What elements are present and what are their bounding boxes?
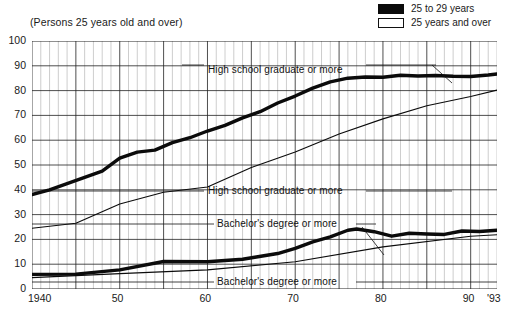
plot-area [32, 41, 497, 289]
y-tick-90: 90 [0, 59, 26, 71]
x-tick-1980: 80 [375, 292, 387, 304]
y-tick-30: 30 [0, 208, 26, 220]
y-tick-100: 100 [0, 34, 26, 46]
legend-item-25-to-29: 25 to 29 years [378, 2, 508, 15]
x-tick-1990: 90 [463, 292, 475, 304]
annotation-ba-25-29: Bachelor's degree or more [217, 218, 337, 229]
y-tick-40: 40 [0, 183, 26, 195]
x-tick-1950: 50 [112, 292, 124, 304]
x-tick-1993: '93 [487, 292, 501, 304]
y-tick-10: 10 [0, 257, 26, 269]
grid-horizontal [32, 41, 497, 289]
annotation-hs-25-29: High school graduate or more [208, 64, 343, 75]
annotation-hs-25-over: High school graduate or more [208, 185, 343, 196]
legend-item-25-and-over: 25 years and over [378, 16, 508, 29]
y-tick-20: 20 [0, 232, 26, 244]
chart-container: (Persons 25 years old and over) 25 to 29… [0, 0, 511, 311]
legend-swatch-open [378, 18, 404, 28]
legend-label-25-to-29: 25 to 29 years [411, 3, 474, 14]
x-tick-1970: 70 [287, 292, 299, 304]
y-tick-70: 70 [0, 108, 26, 120]
chart-subtitle: (Persons 25 years old and over) [30, 16, 183, 28]
series-ba_25_29 [32, 229, 497, 274]
legend: 25 to 29 years 25 years and over [378, 2, 508, 30]
y-tick-60: 60 [0, 133, 26, 145]
series-hs_25_29 [32, 74, 497, 195]
legend-swatch-filled [378, 4, 404, 14]
x-tick-1960: 60 [199, 292, 211, 304]
annotation-ba-25-over: Bachelor's degree or more [217, 276, 337, 287]
y-tick-50: 50 [0, 158, 26, 170]
legend-label-25-and-over: 25 years and over [411, 17, 491, 28]
annotation-leaders [32, 65, 497, 282]
y-tick-0: 0 [0, 282, 26, 294]
y-tick-80: 80 [0, 84, 26, 96]
chart-svg [32, 41, 497, 289]
data-series-group [32, 74, 497, 278]
x-tick-1940: 1940 [28, 292, 51, 304]
